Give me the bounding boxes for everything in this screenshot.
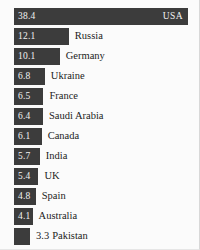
bar: 6.1 <box>14 128 42 145</box>
bar: 6.5 <box>14 88 43 105</box>
bar-value: 12.1 <box>14 32 35 42</box>
bar-row: 38.4USA <box>14 8 191 25</box>
bar: 10.1 <box>14 48 60 65</box>
bar: 6.4 <box>14 108 43 125</box>
bar-row: 4.8Spain <box>14 188 191 205</box>
bar-label: Ukraine <box>45 71 85 82</box>
bar: 12.1 <box>14 28 69 45</box>
bar: 6.8 <box>14 68 45 85</box>
bar: 4.1 <box>14 208 33 225</box>
bar-label: Russia <box>69 31 103 42</box>
bar-label: USA <box>163 12 188 22</box>
bar-row: 6.8Ukraine <box>14 68 191 85</box>
bar-label: Saudi Arabia <box>43 111 104 122</box>
bar-value: 10.1 <box>14 52 35 62</box>
bar-value: 3.3 <box>30 231 49 242</box>
bar: 38.4USA <box>14 8 188 25</box>
bar-row: 5.7India <box>14 148 191 165</box>
bar-value: 6.4 <box>14 112 30 122</box>
bar-label: India <box>40 151 68 162</box>
bar-value: 6.5 <box>14 92 30 102</box>
bar: 5.4 <box>14 168 38 185</box>
bar: 5.7 <box>14 148 40 165</box>
bar <box>14 228 30 245</box>
bar-row: 6.1Canada <box>14 128 191 145</box>
bar-label: France <box>43 91 78 102</box>
bar-label: Spain <box>36 191 66 202</box>
bar-row: 4.1Australia <box>14 208 191 225</box>
bar-row: 6.4Saudi Arabia <box>14 108 191 125</box>
bar-value: 4.1 <box>14 212 30 222</box>
bar-label: Canada <box>42 131 80 142</box>
bar-row: 10.1Germany <box>14 48 191 65</box>
bar-value: 6.8 <box>14 72 30 82</box>
bar-value: 5.4 <box>14 172 30 182</box>
bar-label: Pakistan <box>49 231 88 242</box>
bar: 4.8 <box>14 188 36 205</box>
bar-row: 6.5France <box>14 88 191 105</box>
bar-label: Australia <box>33 211 78 222</box>
bar-value: 5.7 <box>14 152 30 162</box>
bars-area: 38.4USA12.1Russia10.1Germany6.8Ukraine6.… <box>14 8 191 245</box>
horizontal-bar-chart: 38.4USA12.1Russia10.1Germany6.8Ukraine6.… <box>0 0 200 250</box>
bar-value: 38.4 <box>14 12 35 22</box>
bar-label: Germany <box>60 51 105 62</box>
bar-value: 6.1 <box>14 132 30 142</box>
bar-row: 3.3Pakistan <box>14 228 191 245</box>
bar-value: 4.8 <box>14 192 30 202</box>
bar-label: UK <box>38 171 59 182</box>
bar-row: 5.4UK <box>14 168 191 185</box>
bar-row: 12.1Russia <box>14 28 191 45</box>
